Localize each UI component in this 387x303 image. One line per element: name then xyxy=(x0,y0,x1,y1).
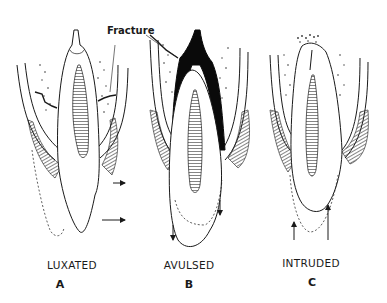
caption-avulsed: AVULSED xyxy=(144,259,234,271)
panel-letter-a: A xyxy=(45,278,75,291)
panel-b-avulsed-tooth xyxy=(146,30,250,247)
caption-luxated: LUXATED xyxy=(27,259,117,271)
panel-letter-c: C xyxy=(297,276,327,289)
panel-a-luxated-tooth xyxy=(17,30,128,236)
panel-letter-b: B xyxy=(174,278,204,291)
fracture-annotation: Fracture xyxy=(107,25,154,36)
caption-intruded: INTRUDED xyxy=(266,257,356,269)
panel-c-intruded-tooth xyxy=(270,34,368,240)
